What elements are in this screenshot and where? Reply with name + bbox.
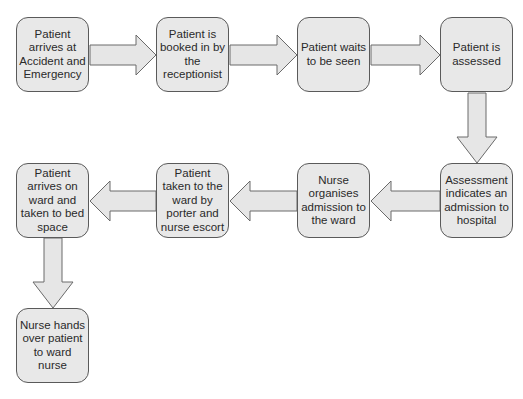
arrow-left-icon [230,181,297,221]
step-box-assessment-admission: Assessment indicates an admission to hos… [440,163,513,238]
step-box-taken-to-ward: Patient taken to the ward by porter and … [156,163,229,238]
flowchart-diagram: Patient arrives at Accident and Emergenc… [0,0,523,399]
step-box-assessed: Patient is assessed [440,17,513,92]
arrow-down-icon [457,93,497,163]
step-box-waits: Patient waits to be seen [297,17,370,92]
step-label: Patient is assessed [443,41,510,68]
step-label: Assessment indicates an admission to hos… [443,174,510,228]
step-label: Patient arrives at Accident and Emergenc… [19,28,86,82]
arrow-left-icon [371,181,440,221]
step-label: Nurse hands over patient to ward nurse [19,319,86,373]
step-box-nurse-organises: Nurse organises admission to the ward [297,163,370,238]
step-label: Patient arrives on ward and taken to bed… [19,167,86,235]
arrow-down-icon [33,238,73,308]
arrow-right-icon [90,35,156,75]
step-label: Nurse organises admission to the ward [300,174,367,228]
step-label: Patient waits to be seen [300,41,367,68]
arrow-right-icon [230,35,297,75]
step-box-booked-in: Patient is booked in by the receptionist [156,17,229,92]
step-label: Patient is booked in by the receptionist [159,28,226,82]
step-box-arrives-on-ward: Patient arrives on ward and taken to bed… [16,163,89,238]
arrow-left-icon [90,181,156,221]
step-box-handover: Nurse hands over patient to ward nurse [16,308,89,383]
arrow-right-icon [371,35,440,75]
step-box-arrival: Patient arrives at Accident and Emergenc… [16,17,89,92]
step-label: Patient taken to the ward by porter and … [159,167,226,235]
